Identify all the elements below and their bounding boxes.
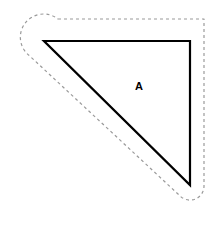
figure-svg: A: [0, 0, 224, 231]
shape-label-a: A: [135, 80, 143, 92]
figure-canvas: A: [0, 0, 224, 231]
